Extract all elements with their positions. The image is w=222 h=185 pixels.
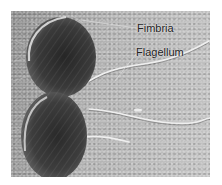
fimbria-pointer	[81, 20, 136, 28]
debris	[134, 109, 142, 112]
fimbria-label: Fimbria	[137, 22, 174, 34]
bacterium-micrograph: Fimbria Flagellum	[11, 11, 210, 177]
micrograph-drawing	[11, 11, 210, 177]
flagellum-label: Flagellum	[136, 46, 184, 58]
